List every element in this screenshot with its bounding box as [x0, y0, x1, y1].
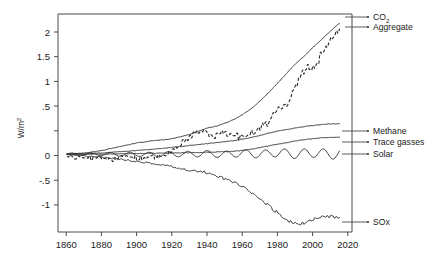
- y-tick-label-0: 0: [45, 150, 50, 161]
- series-curve-co2: [67, 24, 340, 154]
- series-curve-methane: [67, 124, 340, 155]
- x-tick-label-1920: 1920: [161, 239, 182, 250]
- leader-methane: [342, 130, 369, 132]
- y-tick-label-neg0_5: -.5: [39, 175, 50, 186]
- data-series-group: [67, 24, 340, 225]
- leader-trace-gasses: [342, 141, 369, 143]
- series-label-solar: Solar: [373, 149, 393, 159]
- svg-text:W/m2: W/m2: [15, 117, 26, 138]
- y-axis-title: W/m2: [15, 117, 26, 138]
- x-tick-label-1980: 1980: [267, 239, 288, 250]
- plot-frame: [58, 14, 352, 232]
- y-tick-label-1: 1: [45, 76, 50, 87]
- series-curve-trace-gasses: [67, 137, 340, 154]
- x-tick-label-2000: 2000: [302, 239, 323, 250]
- leader-aggregate: [345, 26, 369, 28]
- series-label-aggregate: Aggregate: [373, 22, 413, 32]
- x-tick-label-1960: 1960: [232, 239, 253, 250]
- leader-sox: [342, 221, 369, 223]
- x-tick-label-2020: 2020: [337, 239, 358, 250]
- y-tick-label-neg1: -1: [42, 199, 50, 210]
- x-axis-tick-labels: 1860 1880 1900 1920 1940 1960 1980 2000 …: [56, 239, 359, 250]
- leader-co2: [345, 16, 369, 18]
- series-curve-aggregate: [67, 29, 340, 162]
- y-axis-ticks: [54, 32, 58, 205]
- series-leader-lines: [342, 16, 369, 223]
- leader-solar: [342, 153, 369, 155]
- x-axis-ticks: [66, 232, 348, 236]
- y-axis-tick-labels: 2 1.5 1 .5 0 -.5 -1: [37, 27, 50, 211]
- series-curve-sox: [67, 154, 340, 225]
- series-label-methane: Methane: [373, 126, 407, 136]
- x-tick-label-1900: 1900: [126, 239, 147, 250]
- figure-container: 2 1.5 1 .5 0 -.5 -1 W/m2 1860 1880: [0, 0, 438, 266]
- x-tick-label-1860: 1860: [56, 239, 77, 250]
- y-tick-label-0_5: .5: [42, 101, 50, 112]
- y-axis-title-superscript: 2: [15, 117, 22, 121]
- x-tick-label-1940: 1940: [196, 239, 217, 250]
- series-labels: CO2 Aggregate Methane Trace gasses Solar…: [373, 12, 424, 227]
- x-tick-label-1880: 1880: [91, 239, 112, 250]
- series-label-sox: SOx: [373, 217, 390, 227]
- y-tick-label-2: 2: [45, 27, 50, 38]
- y-axis-title-text: W/m: [16, 121, 26, 138]
- y-tick-label-1_5: 1.5: [37, 51, 50, 62]
- series-label-trace-gasses: Trace gasses: [373, 137, 424, 147]
- radiative-forcing-line-chart: 2 1.5 1 .5 0 -.5 -1 W/m2 1860 1880: [0, 0, 438, 266]
